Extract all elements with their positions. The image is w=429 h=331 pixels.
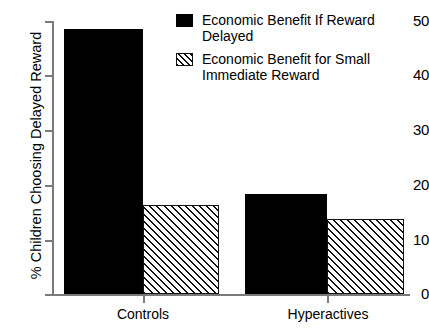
legend-swatch-hatch-icon <box>176 53 193 66</box>
x-tick-label-controls: Controls <box>83 306 203 322</box>
x-tick-mark-hyperactives <box>327 296 329 303</box>
bar-chart: % Children Choosing Delayed Reward 50 40… <box>0 0 429 331</box>
bar-controls-delayed <box>64 29 143 294</box>
legend-label-delayed: Economic Benefit If Reward Delayed <box>202 12 429 44</box>
x-tick-label-hyperactives: Hyperactives <box>258 306 398 322</box>
y-tick-mark-20 <box>45 185 52 187</box>
y-tick-label-20: 20 <box>403 177 429 192</box>
y-tick-label-30: 30 <box>403 122 429 137</box>
x-tick-mark-controls <box>143 296 145 303</box>
y-tick-mark-10 <box>45 240 52 242</box>
y-tick-mark-30 <box>45 130 52 132</box>
y-tick-mark-40 <box>45 75 52 77</box>
y-tick-mark-50 <box>45 21 52 23</box>
bar-hyperactives-delayed <box>245 194 327 294</box>
y-axis-line <box>52 21 54 295</box>
chart-legend: Economic Benefit If Reward Delayed Econo… <box>176 12 429 90</box>
x-axis-line <box>52 294 410 296</box>
legend-item-immediate: Economic Benefit for Small Immediate Rew… <box>176 51 429 83</box>
y-tick-label-10: 10 <box>403 232 429 247</box>
bar-controls-immediate <box>143 205 219 294</box>
y-tick-mark-0 <box>45 294 52 296</box>
y-axis-title: % Children Choosing Delayed Reward <box>29 28 44 284</box>
legend-item-delayed: Economic Benefit If Reward Delayed <box>176 12 429 44</box>
legend-swatch-solid-icon <box>176 14 193 27</box>
legend-label-immediate: Economic Benefit for Small Immediate Rew… <box>202 51 370 83</box>
bar-hyperactives-immediate <box>327 219 404 294</box>
